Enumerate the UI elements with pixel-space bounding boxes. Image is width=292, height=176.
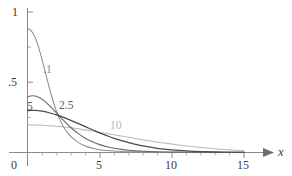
x-axis-name: x — [278, 146, 284, 159]
x-tick-label-5: 5 — [96, 159, 102, 171]
curve-label-0-1: .1 — [43, 64, 52, 76]
x-tick-label-15: 15 — [237, 159, 249, 171]
y-tick-label-1: 1 — [12, 6, 18, 18]
curve-group — [28, 29, 245, 153]
curve-10 — [28, 125, 245, 151]
curve-0-1 — [28, 29, 245, 153]
y-tick-label-half: .5 — [8, 76, 17, 88]
x-tick-label-10: 10 — [165, 159, 177, 171]
curve-label-2-5: 2.5 — [59, 100, 73, 112]
x-axis-arrow-icon — [263, 148, 274, 157]
curve-2-5 — [28, 110, 245, 152]
chart-figure: 1 .5 0 5 10 15 x .1 5 2.5 10 — [0, 0, 292, 176]
curve-label-10: 10 — [110, 120, 122, 132]
plot-area — [0, 0, 292, 176]
curve-label-0-5: 5 — [27, 101, 33, 113]
x-tick-label-0: 0 — [11, 159, 17, 171]
x-tick-marks — [42, 153, 244, 159]
